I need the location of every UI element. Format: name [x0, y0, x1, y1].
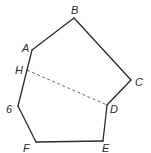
- dashed-edges: [27, 70, 107, 105]
- vertex-label-F: F: [23, 142, 31, 153]
- edge-CD: [107, 80, 131, 105]
- dashed-segment-HD: [27, 70, 107, 105]
- vertex-label-G: 6: [6, 103, 13, 115]
- vertex-label-A: A: [21, 42, 29, 54]
- edge-AB: [32, 18, 74, 50]
- vertex-label-E: E: [102, 142, 110, 153]
- edge-BC: [74, 18, 131, 80]
- labels: A B C D E F 6 H: [6, 4, 143, 153]
- vertex-label-B: B: [71, 4, 78, 16]
- vertex-label-D: D: [110, 103, 118, 115]
- polygon-diagram: A B C D E F 6 H: [0, 0, 151, 153]
- edge-EF: [36, 141, 103, 142]
- edge-DE: [103, 105, 107, 141]
- edges: [18, 18, 131, 142]
- vertex-label-H: H: [15, 64, 23, 76]
- edge-FG: [18, 106, 36, 142]
- vertex-label-C: C: [135, 76, 143, 88]
